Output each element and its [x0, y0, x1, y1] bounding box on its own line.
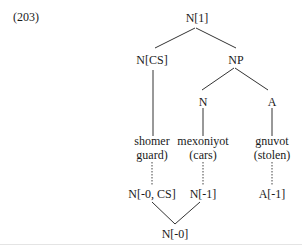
- edge-root-left: [155, 28, 195, 48]
- tree-lines: [0, 0, 302, 252]
- edge-lower-left: [152, 202, 175, 224]
- edge-np-n: [202, 68, 234, 90]
- leaf-word-shomer: shomer: [134, 135, 169, 148]
- lower-node-n-0-cs: N[-0, CS]: [128, 188, 175, 201]
- node-np: NP: [228, 54, 243, 67]
- node-n-cs: N[CS]: [136, 54, 167, 67]
- leaf-word-mexoniyot: mexoniyot: [177, 135, 228, 148]
- leaf-gloss-guard: guard): [136, 149, 167, 162]
- page-divider: [0, 244, 302, 245]
- lower-node-n-1: N[-1]: [190, 188, 217, 201]
- node-root: N[1]: [186, 12, 209, 25]
- edge-np-a: [235, 68, 268, 90]
- leaf-gloss-cars: (cars): [189, 149, 216, 162]
- leaf-gloss-stolen: (stolen): [254, 149, 291, 162]
- node-a: A: [268, 96, 277, 109]
- edge-root-right: [196, 28, 236, 48]
- lower-node-a-1: A[-1]: [259, 188, 286, 201]
- node-n: N: [199, 96, 208, 109]
- edge-lower-right: [175, 202, 200, 224]
- leaf-word-gnuvot: gnuvot: [255, 135, 288, 148]
- lower-root-n-0: N[-0]: [162, 228, 189, 241]
